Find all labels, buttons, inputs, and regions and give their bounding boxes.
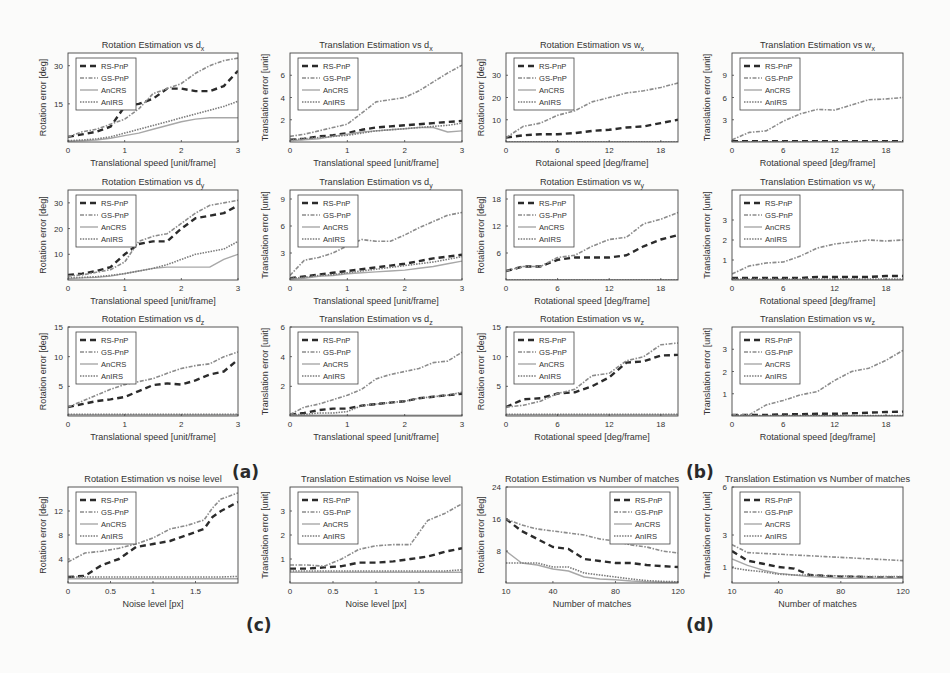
- x-tick-label: 2: [179, 146, 184, 155]
- x-tick-label: 40: [774, 587, 783, 596]
- subplot-title: Rotation Estimation vs noise level: [84, 474, 221, 484]
- y-tick-label: 20: [492, 94, 501, 103]
- legend-label: AnIRS: [323, 372, 345, 381]
- subplot-trans-dz: 0123246Translation Estimation vs dzTrans…: [260, 314, 465, 442]
- y-axis-label: Translation error [unit]: [260, 191, 270, 279]
- y-tick-label: 15: [492, 323, 501, 332]
- subplot-title: Translation Estimation vs wx: [760, 40, 875, 52]
- legend-label: AnCRS: [101, 360, 126, 369]
- subplot-trans-wx: 061218369Translation Estimation vs wxRot…: [702, 40, 903, 168]
- y-tick-label: 12: [492, 222, 501, 231]
- legend-label: RS-PnP: [539, 199, 566, 208]
- y-axis-label: Rotation error [deg]: [38, 496, 48, 574]
- legend: RS-PnPGS-PnPAnCRSAnIRS: [76, 195, 136, 247]
- y-tick-label: 6: [281, 323, 286, 332]
- legend-label: AnCRS: [323, 520, 348, 529]
- x-tick-label: 120: [671, 587, 685, 596]
- x-tick-label: 0: [730, 420, 735, 429]
- x-tick-label: 2: [402, 146, 407, 155]
- legend-label: AnCRS: [101, 520, 126, 529]
- legend-label: AnCRS: [765, 360, 790, 369]
- y-tick-label: 12: [54, 507, 63, 516]
- y-tick-label: 2: [281, 531, 286, 540]
- x-axis-label: Translational speed [unit/frame]: [90, 296, 216, 306]
- panel-label-b: (b): [686, 462, 714, 482]
- legend: RS-PnPGS-PnPAnCRSAnIRS: [514, 195, 574, 247]
- subplot-title: Rotation Estimation vs dy: [102, 177, 205, 190]
- x-tick-label: 1.5: [413, 587, 425, 596]
- y-tick-label: 6: [281, 71, 286, 80]
- subplot-trans-matches: 104080120136Translation Estimation vs Nu…: [702, 474, 910, 609]
- x-tick-label: 1: [345, 420, 350, 429]
- x-tick-label: 18: [656, 420, 665, 429]
- x-tick-label: 40: [548, 587, 557, 596]
- legend: RS-PnPGS-PnPAnCRSAnIRS: [740, 492, 800, 544]
- subplot-trans-wz: 061218123Translation Estimation vs wzRot…: [702, 314, 903, 442]
- x-tick-label: 80: [836, 587, 845, 596]
- x-tick-label: 2: [179, 420, 184, 429]
- y-tick-label: 15: [54, 323, 63, 332]
- subplot-rot-noise: 00.511.54812Rotation Estimation vs noise…: [38, 474, 238, 609]
- x-tick-label: 120: [896, 587, 910, 596]
- subplot-title: Rotation Estimation vs wx: [540, 40, 645, 52]
- panel-label-a: (a): [232, 462, 259, 482]
- x-tick-label: 2: [402, 420, 407, 429]
- x-tick-label: 18: [656, 284, 665, 293]
- x-axis-label: Translational speed [unit/frame]: [90, 432, 216, 442]
- legend: RS-PnPGS-PnPAnCRSAnIRS: [610, 492, 670, 544]
- y-tick-label: 3: [723, 216, 728, 225]
- legend-label: AnIRS: [101, 372, 123, 381]
- x-axis-label: Translational speed [unit/frame]: [313, 432, 439, 442]
- subplot-title: Rotation Estimation vs wz: [540, 314, 645, 326]
- legend-label: AnCRS: [101, 223, 126, 232]
- subplot-rot-dy: 0123102030Rotation Estimation vs dyTrans…: [38, 177, 241, 306]
- x-axis-label: Noise level [px]: [122, 599, 183, 609]
- legend: RS-PnPGS-PnPAnCRSAnIRS: [76, 492, 136, 544]
- legend-label: GS-PnP: [765, 211, 793, 220]
- x-tick-label: 3: [236, 284, 241, 293]
- x-tick-label: 12: [605, 146, 614, 155]
- y-tick-label: 30: [54, 62, 63, 71]
- x-tick-label: 3: [460, 420, 465, 429]
- x-tick-label: 12: [830, 420, 839, 429]
- x-axis-label: Noise level [px]: [345, 599, 406, 609]
- y-tick-label: 30: [54, 199, 63, 208]
- y-tick-label: 9: [723, 71, 728, 80]
- legend-label: RS-PnP: [323, 336, 350, 345]
- y-tick-label: 18: [492, 195, 501, 204]
- x-tick-label: 6: [781, 284, 786, 293]
- y-tick-label: 4: [281, 353, 286, 362]
- subplot-trans-dy: 0123369Translation Estimation vs dyTrans…: [260, 177, 465, 306]
- y-tick-label: 10: [492, 116, 501, 125]
- legend: RS-PnPGS-PnPAnCRSAnIRS: [76, 58, 136, 110]
- y-axis-label: Translation error [unit]: [260, 328, 270, 416]
- x-tick-label: 0: [504, 420, 509, 429]
- y-tick-label: 3: [723, 531, 728, 540]
- legend: RS-PnPGS-PnPAnCRSAnIRS: [740, 195, 800, 247]
- legend-label: GS-PnP: [101, 508, 129, 517]
- legend: RS-PnPGS-PnPAnCRSAnIRS: [514, 58, 574, 110]
- x-tick-label: 12: [830, 146, 839, 155]
- x-tick-label: 3: [236, 146, 241, 155]
- x-tick-label: 0: [66, 587, 71, 596]
- x-tick-label: 6: [555, 284, 560, 293]
- legend-label: GS-PnP: [765, 508, 793, 517]
- y-axis-label: Translation error [unit]: [260, 491, 270, 579]
- legend: RS-PnPGS-PnPAnCRSAnIRS: [740, 58, 800, 110]
- x-tick-label: 1: [345, 284, 350, 293]
- x-tick-label: 18: [881, 420, 890, 429]
- legend-label: RS-PnP: [101, 336, 128, 345]
- legend-label: RS-PnP: [765, 62, 792, 71]
- series-anirs: [68, 576, 238, 577]
- x-tick-label: 0: [504, 284, 509, 293]
- legend-label: RS-PnP: [101, 496, 128, 505]
- y-tick-label: 5: [59, 382, 64, 391]
- y-tick-label: 16: [492, 515, 501, 524]
- y-tick-label: 4: [59, 555, 64, 564]
- legend-label: AnCRS: [539, 86, 564, 95]
- subplot-rot-wy: 06121861218Rotation Estimation vs wyRota…: [476, 177, 678, 306]
- y-tick-label: 3: [723, 116, 728, 125]
- x-tick-label: 3: [460, 146, 465, 155]
- legend-label: RS-PnP: [635, 496, 662, 505]
- y-axis-label: Rotation error [deg]: [476, 196, 486, 274]
